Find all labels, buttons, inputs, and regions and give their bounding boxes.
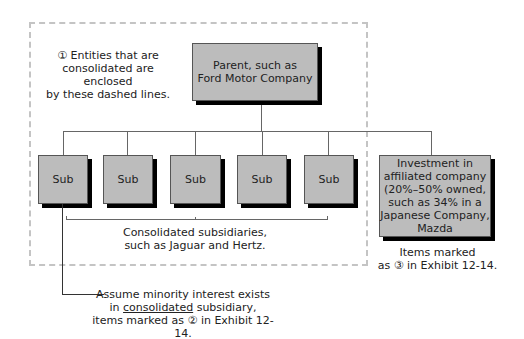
affiliate-label-line: such as 34% in a bbox=[380, 196, 489, 209]
caption-line: Consolidated subsidiaries, bbox=[120, 226, 270, 239]
sub-box: Sub bbox=[38, 155, 88, 204]
parent-box: Parent, such as Ford Motor Company bbox=[192, 43, 318, 101]
affiliate-label-line: Mazda bbox=[380, 222, 489, 235]
sub-box: Sub bbox=[170, 155, 221, 204]
bracket-end bbox=[66, 216, 67, 220]
sub-label: Sub bbox=[252, 173, 273, 186]
note-line: ① Entities that are bbox=[38, 49, 178, 62]
dashed-lines-note: ① Entities that are consolidated are enc… bbox=[38, 49, 178, 101]
minority-leader-vertical bbox=[62, 204, 63, 295]
note-line: by these dashed lines. bbox=[38, 88, 178, 101]
sub-box: Sub bbox=[237, 155, 287, 204]
affiliate-box: Investment in affiliated company (20%–50… bbox=[379, 155, 491, 237]
affiliate-label-line: Investment in bbox=[380, 157, 489, 170]
note-line: consolidated are enclosed bbox=[38, 62, 178, 88]
parent-label-line: Ford Motor Company bbox=[197, 72, 312, 85]
sub-connector bbox=[63, 131, 64, 155]
minority-line: in consolidated subsidiary, bbox=[88, 301, 278, 314]
sub-label: Sub bbox=[319, 173, 340, 186]
minority-line: items marked as ② in Exhibit 12-14. bbox=[88, 314, 278, 339]
affiliate-caption: Items marked as ③ in Exhibit 12-14. bbox=[375, 246, 500, 272]
caption-line: such as Jaguar and Hertz. bbox=[120, 239, 270, 252]
text: in bbox=[110, 301, 124, 314]
minority-line: Assume minority interest exists bbox=[88, 288, 278, 301]
caption-line: Items marked bbox=[375, 246, 500, 259]
sub-connector bbox=[328, 131, 329, 155]
bracket-end bbox=[327, 216, 328, 220]
caption-line: as ③ in Exhibit 12-14. bbox=[375, 259, 500, 272]
underlined-text: consolidated bbox=[123, 301, 193, 314]
parent-connector bbox=[261, 105, 262, 131]
sub-box: Sub bbox=[103, 155, 153, 204]
affiliate-label-line: (20%–50% owned, bbox=[380, 183, 489, 196]
subs-caption: Consolidated subsidiaries, such as Jagua… bbox=[120, 226, 270, 252]
sub-box: Sub bbox=[304, 155, 354, 204]
affiliate-connector bbox=[431, 131, 432, 155]
parent-label-line: Parent, such as bbox=[197, 59, 312, 72]
horizontal-connector bbox=[63, 131, 432, 132]
affiliate-label-line: Japanese Company, bbox=[380, 209, 489, 222]
affiliate-label-line: affiliated company bbox=[380, 170, 489, 183]
sub-connector bbox=[195, 131, 196, 155]
sub-label: Sub bbox=[53, 173, 74, 186]
sub-label: Sub bbox=[118, 173, 139, 186]
sub-connector bbox=[262, 131, 263, 155]
sub-connector bbox=[127, 131, 128, 155]
text: subsidiary, bbox=[193, 301, 256, 314]
bracket-center bbox=[195, 217, 196, 220]
subs-bracket bbox=[66, 219, 328, 220]
minority-note: Assume minority interest exists in conso… bbox=[88, 288, 278, 339]
sub-label: Sub bbox=[185, 173, 206, 186]
